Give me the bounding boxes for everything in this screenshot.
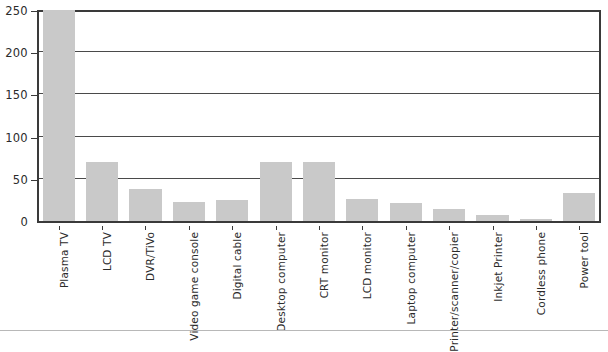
- bar: [216, 200, 248, 221]
- bar: [86, 162, 118, 221]
- x-tick-label: Inkjet Printer: [471, 232, 514, 332]
- x-tick-label-text: Plasma TV: [59, 232, 70, 288]
- x-tick-label-text: Printer/scanner/copier: [449, 232, 460, 352]
- x-tick-label: Plasma TV: [37, 232, 80, 332]
- x-tick-label-text: Cordless phone: [536, 232, 547, 315]
- x-tick-label-text: Inkjet Printer: [493, 232, 504, 302]
- bar: [129, 189, 161, 221]
- x-tick-mark: [232, 226, 233, 230]
- y-tick-label-100: 100: [5, 131, 28, 145]
- x-tick-label-text: DVR/TiVo: [145, 232, 156, 281]
- bar: [260, 162, 292, 221]
- x-axis: Plasma TVLCD TVDVR/TiVoVideo game consol…: [37, 226, 601, 334]
- y-tick-label-0: 0: [20, 215, 28, 229]
- x-tick-label-text: Desktop computer: [276, 232, 287, 332]
- x-tick-mark: [406, 226, 407, 230]
- bar: [346, 199, 378, 221]
- x-tick-mark: [319, 226, 320, 230]
- x-tick-label-text: Power tool: [579, 232, 590, 288]
- x-tick-mark: [449, 226, 450, 230]
- x-tick-label-text: Digital cable: [232, 232, 243, 300]
- x-tick-label: Printer/scanner/copier: [427, 232, 470, 332]
- page-bottom-rule: [0, 330, 608, 331]
- y-tick-label-200: 200: [5, 46, 28, 60]
- bar: [433, 209, 465, 221]
- y-tick-label-250: 250: [5, 4, 28, 18]
- x-tick-mark: [579, 226, 580, 230]
- x-tick-label-text: CRT monitor: [319, 232, 330, 298]
- x-tick-label: Laptop computer: [384, 232, 427, 332]
- bar: [303, 162, 335, 221]
- x-tick-label-text: Video game console: [189, 232, 200, 341]
- x-tick-label-text: Laptop computer: [406, 232, 417, 324]
- x-tick-mark: [189, 226, 190, 230]
- x-tick-mark: [145, 226, 146, 230]
- x-tick-mark: [493, 226, 494, 230]
- bar: [173, 202, 205, 221]
- x-tick-mark: [536, 226, 537, 230]
- bar: [563, 193, 595, 221]
- x-tick-mark: [362, 226, 363, 230]
- x-tick-label: Video game console: [167, 232, 210, 332]
- bar: [390, 203, 422, 221]
- x-tick-mark: [276, 226, 277, 230]
- bar: [520, 219, 552, 221]
- x-tick-label-text: LCD TV: [102, 232, 113, 271]
- plot-area: [37, 10, 601, 223]
- bars-group: [39, 12, 599, 221]
- bar: [476, 215, 508, 221]
- y-tick-label-150: 150: [5, 88, 28, 102]
- x-tick-label: LCD TV: [80, 232, 123, 332]
- x-tick-label: Cordless phone: [514, 232, 557, 332]
- x-tick-mark: [102, 226, 103, 230]
- x-tick-label: LCD monitor: [341, 232, 384, 332]
- y-axis: 050100150200250: [0, 0, 37, 233]
- x-tick-label: DVR/TiVo: [124, 232, 167, 332]
- x-tick-mark: [59, 226, 60, 230]
- x-tick-label: Power tool: [558, 232, 601, 332]
- x-tick-label: Desktop computer: [254, 232, 297, 332]
- x-tick-label-text: LCD monitor: [362, 232, 373, 299]
- y-tick-label-50: 50: [13, 173, 28, 187]
- bar: [43, 10, 75, 221]
- x-tick-label: Digital cable: [211, 232, 254, 332]
- x-tick-label: CRT monitor: [297, 232, 340, 332]
